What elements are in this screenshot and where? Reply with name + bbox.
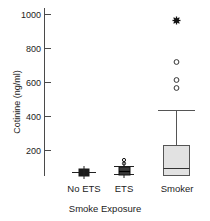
x-tick-label-no-ets: No ETS <box>58 183 110 194</box>
y-axis-ticks <box>45 15 52 151</box>
boxplot-chart: Cotinine (ng/ml) 1000 800 600 400 200 <box>0 0 210 221</box>
outlier-540 <box>174 86 179 91</box>
outlier-585 <box>174 78 179 83</box>
x-axis-title: Smoke Exposure <box>0 203 210 214</box>
x-tick-label-ets: ETS <box>104 183 144 194</box>
outlier-690 <box>174 60 179 65</box>
box-smoker <box>158 17 195 176</box>
x-tick-label-smoker: Smoker <box>148 183 206 194</box>
box-ets <box>114 158 134 178</box>
box-no-ets <box>72 166 96 179</box>
